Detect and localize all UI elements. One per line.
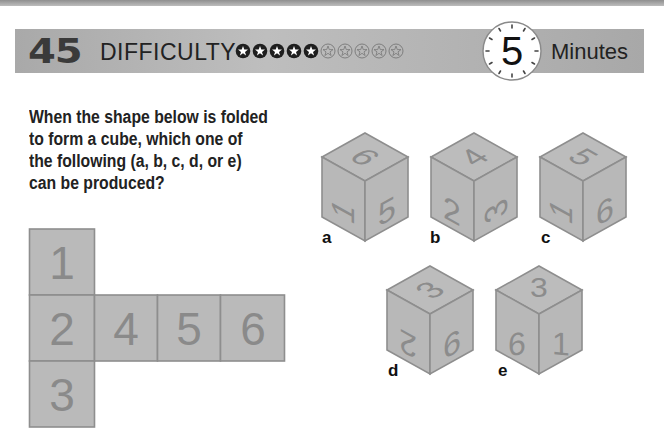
cube-e-left-face: 6 bbox=[508, 325, 526, 363]
option-d-label[interactable]: d bbox=[388, 361, 398, 381]
option-d-cube[interactable]: 3 2 9 bbox=[387, 266, 473, 374]
option-b-cube[interactable]: 4 2 3 bbox=[431, 133, 517, 241]
option-a-label[interactable]: a bbox=[322, 228, 331, 248]
cube-options: 9 1 5 4 2 3 5 1 6 3 2 9 bbox=[0, 0, 664, 448]
option-e-cube[interactable]: 3 6 1 bbox=[496, 266, 582, 374]
option-c-label[interactable]: c bbox=[541, 228, 550, 248]
cube-e-top-face: 3 bbox=[530, 273, 548, 303]
option-a-cube[interactable]: 9 1 5 bbox=[322, 133, 408, 241]
cube-e-right-face: 1 bbox=[552, 325, 570, 363]
option-c-cube[interactable]: 5 1 6 bbox=[540, 133, 626, 241]
option-b-label[interactable]: b bbox=[430, 228, 440, 248]
option-e-label[interactable]: e bbox=[498, 361, 507, 381]
